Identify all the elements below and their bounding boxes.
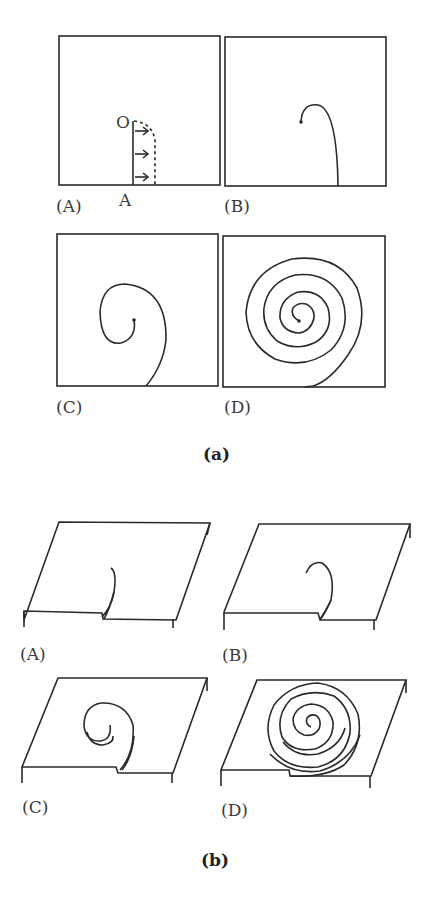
panel-label: (A) — [20, 644, 46, 664]
arrow-icon — [135, 127, 148, 181]
panel-label: (D) — [221, 800, 248, 820]
panel-b-D: (D) — [221, 680, 406, 820]
panel-label: (D) — [224, 397, 251, 417]
panel-a-A: O A (A) — [56, 36, 220, 216]
panel-label: (A) — [56, 196, 82, 216]
panel-b-C: (C) — [22, 678, 207, 817]
panel-a-B: (B) — [224, 37, 386, 216]
panel-a-D: (D) — [223, 236, 385, 417]
panel-b-A: (A) — [20, 522, 210, 664]
panel-label: (B) — [224, 196, 250, 216]
panel-label: (B) — [222, 645, 248, 665]
spiral-growth-diagram: O A (A) (B) (C) (D) (a) (A) — [0, 0, 433, 901]
caption-a: (a) — [203, 444, 230, 464]
panel-a-C: (C) — [56, 234, 218, 417]
panel-label: (C) — [56, 397, 82, 417]
panel-label: (C) — [22, 797, 48, 817]
point-a-label: A — [118, 190, 132, 210]
panel-b-B: (B) — [222, 524, 410, 665]
caption-b: (b) — [201, 850, 229, 870]
point-o-label: O — [116, 112, 130, 132]
